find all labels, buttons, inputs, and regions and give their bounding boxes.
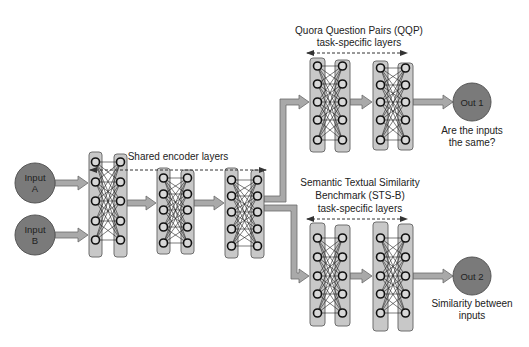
neuron-node: [377, 81, 385, 89]
neuron-node: [402, 81, 410, 89]
neuron-node: [377, 309, 385, 317]
neuron-node: [228, 176, 236, 184]
shared-encoder-block-3: [225, 168, 264, 258]
neuron-node: [402, 309, 410, 317]
neuron-node: [377, 64, 385, 72]
neuron-node: [377, 136, 385, 144]
neuron-node: [377, 272, 385, 280]
qqp-block-1: [310, 58, 350, 152]
neuron-node: [339, 234, 347, 242]
output-2-desc-line-2: inputs: [459, 310, 486, 321]
neuron-node: [339, 80, 347, 88]
neuron-node: [314, 234, 322, 242]
qqp-label-line-1: Quora Question Pairs (QQP): [295, 25, 423, 36]
neuron-node: [117, 217, 125, 225]
neuron-node: [254, 242, 262, 250]
neuron-node: [117, 197, 125, 205]
neuron-node: [254, 208, 262, 216]
encoder-to-stsb-arrow: [264, 205, 309, 283]
output-1-desc-line-2: the same?: [449, 137, 496, 148]
input-b-label-line-2: B: [32, 235, 38, 246]
neuron-node: [92, 197, 100, 205]
neuron-node: [314, 116, 322, 124]
output-1-label: Out 1: [460, 97, 483, 108]
neuron-node: [339, 272, 347, 280]
neuron-node: [339, 136, 347, 144]
neuron-node: [377, 253, 385, 261]
neuron-node: [184, 239, 192, 247]
neuron-node: [160, 190, 168, 198]
qqp-label-group: Quora Question Pairs (QQP) task-specific…: [295, 25, 423, 53]
neuron-node: [184, 174, 192, 182]
neuron-node: [377, 234, 385, 242]
neuron-node: [254, 192, 262, 200]
neuron-node: [377, 98, 385, 106]
output-2-node: Out 2 Similarity between inputs: [431, 257, 512, 321]
encoder-2-to-3-arrow: [194, 196, 224, 210]
encoder-1-to-2-arrow: [127, 196, 156, 210]
output-2-desc-line-1: Similarity between: [431, 298, 512, 309]
output-2-label: Out 2: [460, 271, 483, 282]
stsb-block-2: [373, 222, 413, 331]
neuron-node: [339, 98, 347, 106]
qqp-to-out1-arrow: [413, 95, 453, 109]
neuron-node: [402, 98, 410, 106]
neuron-node: [314, 253, 322, 261]
neuron-node: [184, 206, 192, 214]
input-a-label-line-1: Input: [24, 172, 45, 183]
shared-encoder-block-1: [89, 152, 127, 257]
neuron-node: [160, 239, 168, 247]
output-1-desc-line-1: Are the inputs: [441, 125, 503, 136]
neuron-node: [339, 253, 347, 261]
stsb-block-1: [310, 223, 350, 326]
neuron-node: [160, 174, 168, 182]
output-1-node: Out 1 Are the inputs the same?: [441, 83, 503, 148]
neuron-node: [254, 225, 262, 233]
neuron-node: [314, 136, 322, 144]
neuron-node: [92, 158, 100, 166]
neuron-node: [228, 225, 236, 233]
qqp-1-to-2-arrow: [350, 95, 372, 109]
input-b-label-line-1: Input: [24, 224, 45, 235]
qqp-label-line-2: task-specific layers: [317, 37, 401, 48]
input-a-node: Input A: [15, 163, 55, 203]
neuron-node: [184, 223, 192, 231]
neuron-node: [92, 217, 100, 225]
neuron-node: [402, 290, 410, 298]
stsb-1-to-2-arrow: [350, 269, 372, 283]
multi-task-network-diagram: Shared encoder layers Quora Question Pai…: [0, 0, 529, 347]
neuron-node: [314, 290, 322, 298]
neuron-node: [160, 223, 168, 231]
neuron-node: [228, 242, 236, 250]
neuron-node: [314, 309, 322, 317]
neuron-node: [339, 309, 347, 317]
neuron-node: [92, 178, 100, 186]
neuron-node: [377, 290, 385, 298]
neuron-node: [402, 64, 410, 72]
neuron-node: [314, 62, 322, 70]
stsb-label-line-2: Benchmark (STS-B): [315, 190, 404, 201]
neuron-node: [314, 272, 322, 280]
stsb-label-line-3: task-specific layers: [318, 203, 402, 214]
neuron-node: [254, 176, 262, 184]
neuron-node: [117, 236, 125, 244]
neuron-node: [402, 253, 410, 261]
neuron-node: [92, 236, 100, 244]
neuron-node: [339, 116, 347, 124]
neuron-node: [402, 116, 410, 124]
shared-encoder-block-2: [157, 168, 194, 254]
neuron-node: [117, 158, 125, 166]
neuron-node: [228, 192, 236, 200]
shared-encoder-label: Shared encoder layers: [128, 151, 229, 162]
neuron-node: [402, 234, 410, 242]
qqp-block-2: [373, 61, 413, 150]
neuron-node: [402, 272, 410, 280]
neuron-node: [160, 206, 168, 214]
stsb-to-out2-arrow: [413, 269, 453, 283]
neuron-node: [117, 178, 125, 186]
neuron-node: [339, 290, 347, 298]
stsb-label-line-1: Semantic Textual Similarity: [300, 177, 419, 188]
input-a-arrow: [55, 176, 88, 190]
neuron-node: [339, 62, 347, 70]
input-a-label-line-2: A: [32, 183, 39, 194]
